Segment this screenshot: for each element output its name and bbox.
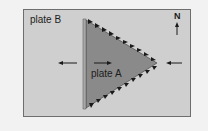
arrow-left-east-icon — [166, 61, 182, 65]
arrow-left-icon — [58, 61, 77, 65]
plate-a-label: plate A — [91, 69, 122, 79]
plate-b-label: plate B — [30, 15, 61, 25]
north-arrow-icon — [175, 22, 179, 35]
north-label: N — [174, 12, 181, 21]
ridge-boundary — [83, 19, 86, 109]
plate-a-triangle — [86, 20, 157, 108]
